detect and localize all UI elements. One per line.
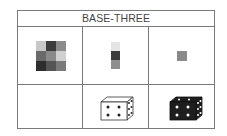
cell-black-die <box>149 85 215 129</box>
grid-square <box>56 61 66 71</box>
base-three-table: BASE-THREE <box>17 10 215 129</box>
grid-square <box>36 41 46 51</box>
column-square <box>111 60 120 69</box>
grid-square <box>46 51 56 61</box>
three-square-column <box>111 42 120 69</box>
grid-square <box>36 61 46 71</box>
nine-square-grid <box>36 41 66 71</box>
white-die-icon <box>100 95 134 121</box>
single-square <box>177 51 187 61</box>
grid-square <box>36 51 46 61</box>
cell-3x1-column <box>83 27 148 84</box>
column-square <box>111 42 120 51</box>
cell-white-die <box>83 85 148 129</box>
cell-single-square <box>149 27 215 84</box>
black-die-icon <box>169 95 203 121</box>
column-square <box>111 51 120 60</box>
table-title: BASE-THREE <box>18 11 214 27</box>
cell-empty <box>18 85 82 129</box>
grid-square <box>56 41 66 51</box>
grid-square <box>56 51 66 61</box>
grid-square <box>46 41 56 51</box>
cell-3x3-grid <box>18 27 82 84</box>
grid-square <box>46 61 56 71</box>
